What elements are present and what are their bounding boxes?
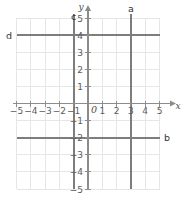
y-tick-label: −5 [70,185,83,195]
line-label-b: b [164,132,170,143]
y-tick-label: 5 [77,14,83,24]
y-tick-label: −2 [70,133,83,143]
x-tick-label: 5 [157,106,163,116]
line-label-a: a [128,3,134,14]
coordinate-grid-figure: −5 −4 −3 −2 −1 1 2 3 4 5 5 4 3 2 1 −1 −2… [0,0,192,197]
x-tick-label: 2 [114,106,120,116]
x-axis-label: x [175,101,180,111]
x-tick-label: −1 [67,106,80,116]
y-tick-label: 4 [77,31,83,41]
x-tick-labels: −5 −4 −3 −2 −1 1 2 3 4 5 [10,106,163,116]
x-tick-label: −4 [24,106,38,116]
x-tick-label: 4 [142,106,148,116]
y-tick-label: −4 [70,167,84,177]
x-tick-label: −5 [10,106,23,116]
y-tick-label: −1 [70,116,83,126]
y-tick-label: 1 [77,82,83,92]
y-tick-label: 2 [77,65,83,75]
y-axis-label: y [77,2,84,12]
x-tick-label: 3 [128,106,134,116]
x-tick-label: −2 [53,106,66,116]
line-label-d: d [6,30,12,41]
y-axis-arrow [85,5,91,11]
graph-svg: −5 −4 −3 −2 −1 1 2 3 4 5 5 4 3 2 1 −1 −2… [0,0,192,197]
origin-label: 0 [91,104,97,115]
x-tick-label: 1 [99,106,105,116]
x-tick-label: −3 [38,106,51,116]
y-tick-label: −3 [70,150,83,160]
y-tick-label: 3 [77,48,83,58]
line-label-c: c [71,11,76,22]
